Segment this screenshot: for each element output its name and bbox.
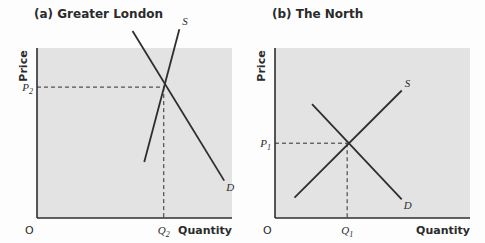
y-axis-label: Price	[255, 50, 268, 81]
x-axis-label: Quantity	[416, 224, 470, 237]
origin-label: O	[263, 224, 272, 237]
chart-title: (a) Greater London	[34, 7, 163, 21]
origin-label: O	[25, 224, 34, 237]
quantity-tick-subscript: 2	[166, 230, 170, 239]
plot-area	[37, 48, 232, 218]
y-axis-label: Price	[17, 50, 30, 81]
x-axis-label: Quantity	[178, 224, 232, 237]
panel-b: (b) The NorthPriceQuantityOP1Q1DS	[255, 7, 470, 239]
supply-curve-label: S	[405, 77, 411, 89]
panel-a: (a) Greater LondonPriceQuantityOP2Q2DS	[17, 7, 234, 239]
quantity-tick-label: Q2	[158, 224, 170, 239]
supply-curve-label: S	[182, 15, 188, 27]
demand-curve-label: D	[403, 199, 412, 211]
price-tick-label: P2	[21, 81, 33, 96]
plot-area	[275, 48, 470, 218]
price-tick-subscript: 1	[267, 143, 271, 152]
quantity-tick-label: Q1	[341, 224, 353, 239]
price-tick-label: P1	[259, 137, 271, 152]
chart-figure: (a) Greater LondonPriceQuantityOP2Q2DS(b…	[0, 0, 485, 243]
demand-curve-label: D	[225, 181, 234, 193]
price-tick-subscript: 2	[29, 87, 33, 96]
quantity-tick-subscript: 1	[349, 230, 353, 239]
chart-title: (b) The North	[272, 7, 363, 21]
